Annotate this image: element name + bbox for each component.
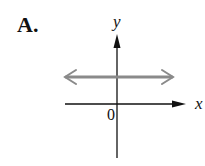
y-axis-arrow-icon — [114, 34, 121, 48]
origin-label: 0 — [107, 106, 115, 123]
x-axis-arrow-icon — [172, 101, 186, 108]
x-axis-label: x — [194, 94, 203, 113]
coordinate-graph: y x 0 — [0, 0, 205, 166]
y-axis-label: y — [111, 12, 121, 31]
y-axis — [114, 34, 121, 158]
horizontal-line — [65, 70, 173, 84]
x-axis — [65, 101, 186, 108]
